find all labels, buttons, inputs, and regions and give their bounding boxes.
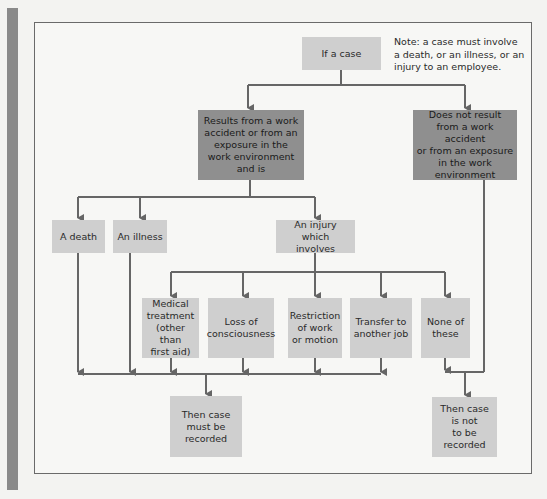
work-related-box: Results from a work accident or from an … <box>198 110 304 180</box>
not-recorded-box: Then case is not to be recorded <box>432 397 497 457</box>
none-of-these-box: None of these <box>421 298 470 358</box>
note-text: Note: a case must involve a death, or an… <box>394 36 534 74</box>
illness-box: An illness <box>113 220 167 253</box>
injury-box: An injury which involves <box>276 220 355 253</box>
death-box: A death <box>52 220 105 253</box>
medical-treatment-box: Medical treatment (other than first aid) <box>142 298 199 358</box>
start-box: If a case <box>302 37 381 70</box>
not-work-related-box: Does not result from a work accident or … <box>413 110 517 180</box>
transfer-box: Transfer to another job <box>350 298 412 358</box>
loss-of-consciousness-box: Loss of consciousness <box>208 298 274 358</box>
restriction-box: Restriction of work or motion <box>288 298 342 358</box>
must-be-recorded-box: Then case must be recorded <box>170 396 242 457</box>
